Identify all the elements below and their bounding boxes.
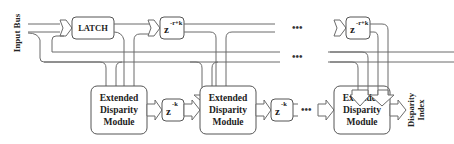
module-2-line2: Disparity [209, 105, 247, 115]
module-1-line3: Module [103, 117, 134, 127]
disparity-pipeline-diagram: Input Bus LATCH z -r+k Extended Disparit… [0, 0, 454, 144]
output-label-line1: Disparity [406, 92, 416, 127]
ellipsis-top-overlay: ••• [292, 22, 303, 33]
bus-gap-mask [280, 48, 328, 66]
delay-bottom-2-base: z [275, 105, 280, 117]
input-bus-label: Input Bus [12, 13, 22, 52]
module-3-line3: Module [346, 117, 377, 127]
arrow-module1-to-delay [147, 100, 162, 120]
output-label-line2: Index [416, 99, 426, 121]
module-2-line1: Extended [209, 93, 248, 103]
arrow-to-delay-top-1 [148, 20, 160, 36]
delay-top-1-exp: -r+k [170, 19, 183, 26]
module-1-line1: Extended [100, 93, 139, 103]
latch-label: LATCH [78, 23, 108, 33]
arrow-to-delay-top-2 [334, 20, 346, 36]
delay-top-2-base: z [350, 23, 355, 35]
ellipsis-bottom: ••• [301, 104, 312, 115]
module-3-line2: Disparity [343, 105, 381, 115]
arrow-module2-to-delay [256, 100, 271, 120]
arrow-delay-to-module2 [184, 100, 200, 120]
ellipsis-middle-overlay: ••• [292, 51, 303, 62]
arrow-output [390, 100, 406, 120]
arrow-to-latch [60, 20, 72, 36]
arrow-to-module3 [318, 100, 334, 120]
latch-feedback [52, 36, 64, 52]
delay-bottom-2-out [293, 104, 298, 116]
delay-top-2-exp: -r+k [356, 19, 369, 26]
module-2-line3: Module [212, 117, 243, 127]
delay-top-2-out-a [370, 24, 388, 95]
delay-bottom-1-base: z [166, 105, 171, 117]
delay-top-1-base: z [164, 23, 169, 35]
module-1-line2: Disparity [100, 105, 138, 115]
delay-bottom-1-exp: -k [172, 100, 178, 107]
top-gap-mask [280, 20, 330, 36]
delay-bottom-2-exp: -k [281, 100, 287, 107]
